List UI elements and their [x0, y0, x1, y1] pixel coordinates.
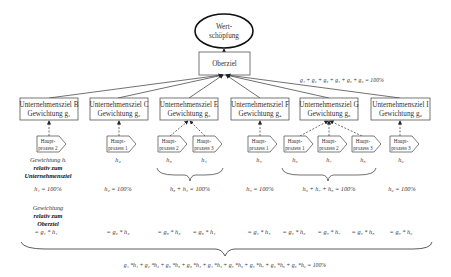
final-equation: g₁ *h₁ + g₂ *h₂ + g₃ *h₃ + g₃ *h₄ + g₄ *…	[124, 262, 327, 268]
h-label: h₇	[326, 156, 331, 163]
label-weight-top-line1: Gewichtung	[33, 204, 63, 211]
goal-weight: Gewichtung g₂	[97, 110, 141, 118]
sum-goal-e: h₃ + h₄ = 100%	[170, 185, 210, 192]
h-label: h₈	[360, 156, 365, 163]
h-label: h₆	[292, 156, 297, 163]
product: = g₆ * h₉	[390, 228, 413, 235]
brace-total	[21, 242, 432, 256]
h-label: h₉	[398, 156, 403, 163]
product: = g₃ * h₃	[158, 228, 181, 235]
process-line2: prozess 2	[319, 145, 339, 151]
top-goal-oberziel: Oberziel	[199, 52, 250, 75]
product: = g₄ * h₅	[248, 228, 271, 235]
brace-goal-g	[282, 168, 376, 181]
goal-weight: Gewichtung g₁	[27, 110, 71, 118]
process-line2: prozess 2	[38, 145, 58, 151]
process-line2: prozess 3	[391, 145, 411, 151]
top-goal-label: Oberziel	[212, 60, 237, 68]
process-line2: prozess 3	[194, 145, 214, 151]
sum-goal-f: h₅ = 100%	[246, 185, 273, 192]
process-line1: Haupt-	[394, 138, 409, 144]
goal-title: Unternehmensziel E	[160, 101, 219, 109]
top-weight-equation: g₁ + g₂ + g₃ + g₄ + g₅ + g₆ = 100%	[300, 77, 384, 83]
diagram-canvas: Wert- schöpfung Oberziel g₁ + g₂ + g₃ + …	[0, 0, 451, 277]
goal-title: Unternehmensziel I	[372, 101, 429, 109]
process-h7: Haupt- prozess 2	[318, 136, 347, 152]
process-line1: Haupt-	[322, 138, 337, 144]
goal-g: Unternehmensziel G Gewichtung g₅	[299, 98, 358, 120]
label-weight-top-line3: Oberziel	[37, 220, 59, 227]
goal-weight: Gewichtung g₃	[167, 110, 211, 118]
product: = g₃ * h₄	[193, 228, 216, 235]
process-line1: Haupt-	[162, 138, 177, 144]
h-label: h₄	[201, 156, 206, 163]
sum-goal-b: h₁ = 100%	[34, 185, 61, 192]
h-label: h₅	[256, 156, 261, 163]
product: = g₅ * h₇	[318, 228, 341, 235]
goal-title: Unternehmensziel B	[20, 101, 79, 109]
sum-goal-i: h₉ = 100%	[388, 185, 415, 192]
process-line1: Haupt-	[252, 138, 267, 144]
process-line1: Haupt-	[288, 138, 303, 144]
process-h5: Haupt- prozess 1	[248, 136, 277, 152]
process-line1: Haupt-	[111, 138, 126, 144]
process-line1: Haupt-	[356, 138, 371, 144]
goal-f: Unternehmensziel F Gewichtung g₄	[231, 98, 289, 120]
product: = g₅ * h₈	[352, 228, 375, 235]
process-line1: Haupt-	[41, 138, 56, 144]
process-h1: Haupt- prozess 2	[37, 136, 66, 152]
goal-i: Unternehmensziel I Gewichtung g₆	[371, 98, 430, 120]
root-node-wertschoepfung: Wert- schöpfung	[195, 14, 253, 48]
sum-goal-c: h₂ = 100%	[104, 185, 131, 192]
goal-title: Unternehmensziel C	[90, 101, 149, 109]
sum-goal-g: h₆ + h₇ + h₈ = 100%	[303, 185, 356, 192]
process-line2: prozess 1	[249, 145, 269, 151]
label-weight-goal-line2: relativ zum	[34, 164, 63, 171]
product: = g₂ * h₂	[107, 228, 131, 235]
process-connectors	[49, 121, 400, 136]
goal-e: Unternehmensziel E Gewichtung g₃	[160, 98, 219, 120]
process-line1: Haupt-	[197, 138, 212, 144]
process-h6: Haupt- prozess 1	[284, 136, 313, 152]
process-line2: prozess 1	[108, 145, 128, 151]
goal-c: Unternehmensziel C Gewichtung g₂	[90, 98, 149, 120]
h-label: h₂	[115, 156, 121, 163]
process-h8: Haupt- prozess 3	[352, 136, 381, 152]
process-line2: prozess 1	[285, 145, 305, 151]
process-h2: Haupt- prozess 1	[107, 136, 136, 152]
process-h3: Haupt- prozess 2	[158, 136, 187, 152]
product: = g₁ * h₁	[35, 228, 58, 235]
process-h9: Haupt- prozess 3	[390, 136, 419, 152]
goal-title: Unternehmensziel F	[231, 101, 289, 109]
root-label-line1: Wert-	[216, 23, 233, 31]
goal-weight: Gewichtung g₄	[238, 110, 282, 118]
goal-weight: Gewichtung g₆	[379, 110, 423, 118]
process-line2: prozess 3	[353, 145, 373, 151]
process-h4: Haupt- prozess 3	[193, 136, 222, 152]
process-line2: prozess 2	[159, 145, 179, 151]
label-weight-goal-line1: Gewichtung hᵢ	[30, 156, 66, 163]
brace-goal-e	[157, 168, 223, 181]
goal-weight: Gewichtung g₅	[307, 110, 351, 118]
h-label: h₃	[166, 156, 171, 163]
goal-title: Unternehmensziel G	[299, 101, 358, 109]
label-weight-top-line2: relativ zum	[34, 212, 63, 219]
product: = g₅ * h₆	[283, 228, 306, 235]
goal-b: Unternehmensziel B Gewichtung g₁	[20, 98, 79, 120]
root-label-line2: schöpfung	[209, 32, 239, 40]
label-weight-goal-line3: Unternehmensziel	[24, 172, 71, 179]
